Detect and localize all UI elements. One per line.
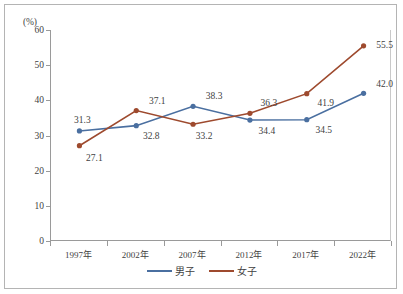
x-axis-tick-mark — [277, 241, 278, 246]
legend-color-swatch — [147, 270, 172, 272]
y-axis-tick-mark — [46, 100, 50, 101]
y-axis-tick-label: 20 — [24, 166, 44, 176]
data-point-label: 31.3 — [74, 115, 91, 125]
y-axis-tick-mark — [46, 30, 50, 31]
x-axis-tick-mark — [334, 241, 335, 246]
plot-area — [50, 30, 391, 241]
x-axis-tick-mark — [107, 241, 108, 246]
data-point-marker — [304, 91, 309, 96]
data-point-marker — [134, 108, 139, 113]
legend-color-swatch — [209, 270, 234, 272]
data-point-label: 33.2 — [196, 131, 213, 141]
data-point-marker — [247, 117, 252, 122]
data-point-label: 34.4 — [259, 126, 276, 136]
y-axis-tick-label: 40 — [24, 95, 44, 105]
chart-lines-svg — [51, 30, 392, 241]
data-point-label: 41.9 — [317, 98, 334, 108]
x-axis-tick-label: 2007年 — [179, 248, 206, 261]
x-axis-tick-label: 2012年 — [235, 248, 262, 261]
data-point-marker — [361, 43, 366, 48]
y-axis-tick-label: 10 — [24, 201, 44, 211]
data-point-label: 55.5 — [376, 40, 393, 50]
data-point-label: 42.0 — [376, 79, 393, 89]
data-point-marker — [134, 123, 139, 128]
data-point-label: 36.3 — [261, 98, 278, 108]
data-point-marker — [77, 143, 82, 148]
x-axis-tick-label: 1997年 — [65, 248, 92, 261]
x-axis-tick-mark — [391, 241, 392, 246]
y-axis-tick-label: 30 — [24, 131, 44, 141]
x-axis-tick-label: 2022年 — [349, 248, 376, 261]
data-point-marker — [304, 117, 309, 122]
x-axis-tick-label: 2002年 — [122, 248, 149, 261]
data-point-label: 37.1 — [149, 96, 166, 106]
data-point-label: 27.1 — [86, 153, 103, 163]
legend-entry-female[interactable]: 女子 — [209, 263, 257, 278]
data-point-label: 38.3 — [206, 91, 223, 101]
legend-entry-male[interactable]: 男子 — [147, 263, 195, 278]
x-axis-tick-mark — [164, 241, 165, 246]
x-axis-tick-mark — [221, 241, 222, 246]
y-axis-tick-label: 50 — [24, 60, 44, 70]
data-point-marker — [190, 104, 195, 109]
data-point-label: 34.5 — [315, 125, 332, 135]
x-axis-tick-mark — [50, 241, 51, 246]
y-axis-tick-label: 60 — [24, 25, 44, 35]
data-point-marker — [247, 111, 252, 116]
legend-label: 男子 — [175, 263, 195, 278]
x-axis-tick-label: 2017年 — [292, 248, 319, 261]
data-point-label: 32.8 — [143, 131, 160, 141]
y-axis-tick-mark — [46, 206, 50, 207]
data-point-marker — [190, 122, 195, 127]
y-axis-tick-mark — [46, 136, 50, 137]
data-point-marker — [361, 91, 366, 96]
chart-container: (%) 6050403020100 1997年2002年2007年2012年20… — [4, 4, 397, 289]
chart-legend: 男子女子 — [5, 263, 398, 278]
y-axis-tick-mark — [46, 171, 50, 172]
legend-label: 女子 — [237, 263, 257, 278]
y-axis-tick-mark — [46, 65, 50, 66]
y-axis-tick-label: 0 — [24, 236, 44, 246]
data-point-marker — [77, 128, 82, 133]
